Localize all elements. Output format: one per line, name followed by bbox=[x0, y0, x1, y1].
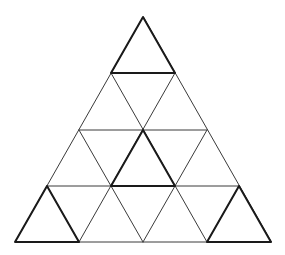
highlight-triangle-bottom-left bbox=[15, 186, 79, 242]
triangle-grid-diagram bbox=[0, 0, 285, 255]
highlighted-triangles bbox=[15, 17, 271, 242]
highlight-triangle-top bbox=[111, 17, 175, 73]
highlight-triangle-bottom-right bbox=[207, 186, 271, 242]
highlight-triangle-center bbox=[111, 130, 175, 186]
